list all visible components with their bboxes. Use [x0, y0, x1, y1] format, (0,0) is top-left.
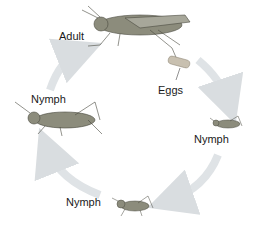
- life-cycle-diagram: Adult Eggs Nymph Nymph Nymph: [0, 0, 253, 231]
- nymph-left-icon: [15, 102, 102, 136]
- arrow-nymph-to-adult: [50, 52, 80, 90]
- eggs-icon: [167, 55, 190, 80]
- label-nymph-left: Nymph: [31, 93, 66, 105]
- label-eggs: Eggs: [158, 84, 183, 96]
- nymph-bottom-icon: [112, 196, 153, 216]
- arrow-adult-to-eggs: [198, 60, 228, 102]
- adult-grasshopper-icon: [82, 6, 190, 62]
- arrow-nymph-to-nymph-left: [48, 150, 100, 195]
- cycle-arrows: [0, 0, 253, 231]
- label-nymph-bottom: Nymph: [66, 196, 101, 208]
- label-adult: Adult: [59, 30, 84, 42]
- label-nymph-right: Nymph: [194, 133, 229, 145]
- nymph-right-icon: [210, 116, 242, 128]
- arrow-nymph-to-nymph: [170, 155, 218, 200]
